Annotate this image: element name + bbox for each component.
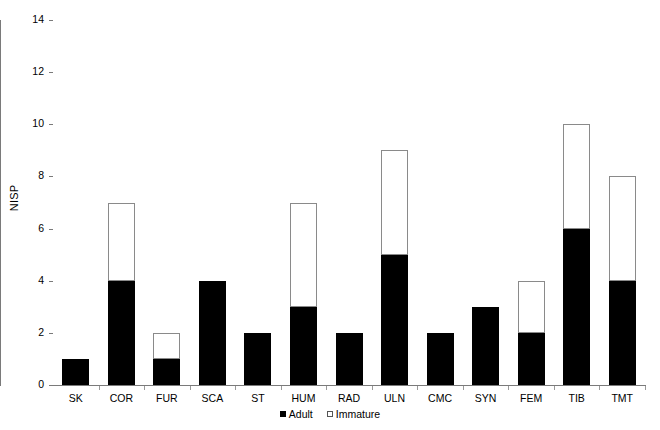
- y-axis-tick-label: 10: [32, 117, 44, 129]
- x-axis-tick-mark: [281, 386, 282, 390]
- y-axis-tick-label: 14: [32, 13, 44, 25]
- bar-stack: [472, 307, 499, 385]
- bar-group: [290, 20, 317, 385]
- x-axis-label: SYN: [463, 392, 509, 404]
- bar-stack: [427, 333, 454, 385]
- bar-segment-adult: [427, 333, 454, 385]
- bar-segment-adult: [244, 333, 271, 385]
- bar-segment-immature: [609, 176, 636, 280]
- bar-segment-adult: [62, 359, 89, 385]
- legend-item: Adult: [280, 408, 313, 420]
- x-axis-label: HUM: [281, 392, 327, 404]
- y-axis-title: NISP: [8, 168, 20, 228]
- y-axis-tick-label: 0: [38, 378, 44, 390]
- x-axis-label: SK: [53, 392, 99, 404]
- y-axis-tick-mark: [49, 385, 53, 386]
- bar-segment-immature: [290, 203, 317, 307]
- bar-stack: [199, 281, 226, 385]
- legend-item: Immature: [327, 408, 380, 420]
- bar-chart: NISP 02468101214 SKCORFURSCASTHUMRADULNC…: [0, 0, 660, 430]
- bar-segment-adult: [108, 281, 135, 385]
- x-axis-label: TIB: [554, 392, 600, 404]
- x-axis-tick-mark: [508, 386, 509, 390]
- bar-stack: [108, 203, 135, 386]
- bar-group: [518, 20, 545, 385]
- bar-segment-adult: [381, 255, 408, 385]
- x-axis-tick-mark: [372, 386, 373, 390]
- filled-square-icon: [280, 411, 286, 417]
- bar-group: [244, 20, 271, 385]
- bar-group: [153, 20, 180, 385]
- y-axis-tick-mark: [49, 72, 53, 73]
- x-axis-label: RAD: [326, 392, 372, 404]
- bar-stack: [381, 150, 408, 385]
- x-axis-label: ULN: [372, 392, 418, 404]
- legend-label: Immature: [336, 408, 380, 420]
- bar-group: [62, 20, 89, 385]
- bar-stack: [244, 333, 271, 385]
- y-axis-tick-mark: [49, 333, 53, 334]
- x-axis-tick-mark: [417, 386, 418, 390]
- bar-segment-immature: [518, 281, 545, 333]
- x-axis-label: SCA: [190, 392, 236, 404]
- bar-segment-adult: [199, 281, 226, 385]
- bar-segment-adult: [518, 333, 545, 385]
- x-axis-tick-mark: [144, 386, 145, 390]
- bar-group: [199, 20, 226, 385]
- x-axis-label: FUR: [144, 392, 190, 404]
- y-axis-tick-label: 2: [38, 326, 44, 338]
- bar-segment-adult: [336, 333, 363, 385]
- bar-group: [336, 20, 363, 385]
- x-axis-line: [53, 385, 646, 386]
- y-axis-tick-mark: [49, 124, 53, 125]
- x-axis-label: ST: [235, 392, 281, 404]
- y-axis-tick-label: 12: [32, 65, 44, 77]
- bar-group: [108, 20, 135, 385]
- bar-segment-adult: [290, 307, 317, 385]
- x-axis-label: FEM: [508, 392, 554, 404]
- x-axis-tick-mark: [645, 386, 646, 390]
- bar-group: [472, 20, 499, 385]
- y-axis-tick-label: 8: [38, 169, 44, 181]
- y-axis-tick-mark: [49, 20, 53, 21]
- x-axis-label: COR: [99, 392, 145, 404]
- bar-group: [563, 20, 590, 385]
- bar-stack: [62, 359, 89, 385]
- bar-segment-adult: [153, 359, 180, 385]
- bar-segment-immature: [108, 203, 135, 281]
- bar-stack: [153, 333, 180, 385]
- chart-legend: AdultImmature: [0, 408, 660, 420]
- legend-label: Adult: [289, 408, 313, 420]
- x-axis-tick-mark: [599, 386, 600, 390]
- x-axis-tick-mark: [99, 386, 100, 390]
- y-axis-tick-mark: [49, 229, 53, 230]
- y-axis-tick-mark: [49, 281, 53, 282]
- x-axis-tick-mark: [326, 386, 327, 390]
- bar-stack: [609, 176, 636, 385]
- bar-stack: [518, 281, 545, 385]
- y-axis-tick-label: 6: [38, 222, 44, 234]
- bar-segment-adult: [609, 281, 636, 385]
- bar-stack: [290, 203, 317, 386]
- y-axis-tick-mark: [49, 176, 53, 177]
- bar-segment-immature: [381, 150, 408, 254]
- bar-segment-immature: [563, 124, 590, 228]
- x-axis-label: CMC: [417, 392, 463, 404]
- bar-segment-adult: [472, 307, 499, 385]
- bar-group: [609, 20, 636, 385]
- bar-segment-adult: [563, 229, 590, 385]
- x-axis-tick-mark: [554, 386, 555, 390]
- x-axis-tick-mark: [190, 386, 191, 390]
- bar-stack: [336, 333, 363, 385]
- y-axis-tick-label: 4: [38, 274, 44, 286]
- x-axis-label: TMT: [599, 392, 645, 404]
- bar-stack: [563, 124, 590, 385]
- y-axis-line: [0, 20, 1, 386]
- bar-group: [381, 20, 408, 385]
- bar-group: [427, 20, 454, 385]
- x-axis-tick-mark: [463, 386, 464, 390]
- plot-area: [53, 20, 645, 385]
- open-square-icon: [327, 411, 333, 417]
- bar-segment-immature: [153, 333, 180, 359]
- x-axis-tick-mark: [235, 386, 236, 390]
